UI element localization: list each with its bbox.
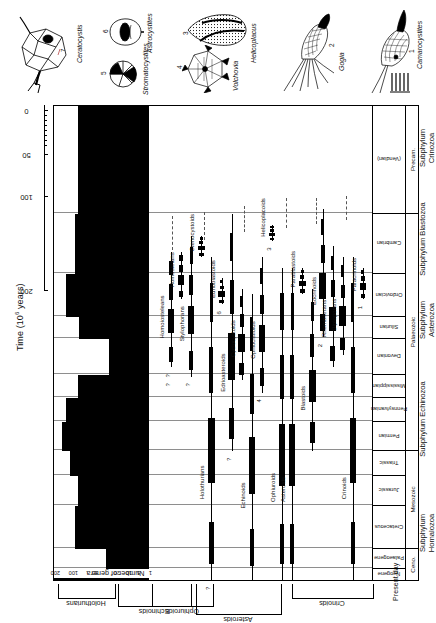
range-segment (361, 277, 365, 281)
period-cell: Permian (373, 421, 405, 450)
diversity-spike (121, 398, 149, 422)
range-segment (209, 347, 213, 392)
range-segment (341, 285, 345, 299)
genera-tick-label: 50 (92, 570, 98, 576)
class-bracket (152, 584, 214, 607)
phylogeny-connector (316, 198, 317, 224)
stromatocystites-illustration (106, 57, 140, 91)
range-bar-label: Edrioasteroids (220, 353, 226, 391)
diversity-spike (125, 451, 149, 476)
range-segment (301, 270, 304, 273)
subphylum-line1: Subphylum Echinozoa (419, 353, 428, 485)
range-segment (350, 418, 357, 483)
diversity-spike (130, 339, 149, 375)
subphylum-labels: SubphylumHomalozoaSubphylum EchinozoaSub… (419, 105, 433, 581)
range-annotation: ? (165, 383, 171, 386)
range-segment (238, 334, 245, 352)
range-segment (230, 280, 234, 313)
range-bar-label: Echinoids (240, 482, 246, 508)
helicoplacus-illustration (186, 7, 248, 53)
genera-tick-label: 5 (137, 570, 140, 576)
illustration-number-stromatocystites: 5 (100, 71, 107, 75)
time-tick (44, 290, 48, 291)
range-bar-label: Ophiocistioids (250, 321, 256, 358)
time-minor-tick (44, 135, 47, 136)
era-cell: Ceno. (405, 548, 418, 580)
range-segment (319, 273, 326, 299)
range-annotation: ? (185, 383, 191, 386)
time-minor-tick (44, 145, 47, 146)
time-tick-label: 200 (20, 287, 33, 296)
class-bracket-label: Holothurians (66, 600, 105, 607)
range-segment (310, 334, 314, 357)
range-bar-label: Stylophorans (179, 306, 185, 341)
range-bar-label: Paracrinoids (351, 258, 357, 291)
phylogeny-connector (172, 216, 173, 250)
subphylum-line1: Subphylum Blastozoa (419, 191, 428, 287)
era-label: Mesozoic (409, 486, 416, 512)
diversity-spike (118, 214, 149, 274)
illustration-name-helicoplacus: Helicoplacus (250, 23, 257, 63)
period-cell: Triassic (373, 450, 405, 475)
time-axis (44, 105, 45, 291)
range-segment (178, 275, 185, 285)
diversity-spike (137, 476, 149, 506)
period-label: Permian (379, 433, 400, 439)
range-segment (331, 256, 334, 271)
range-segment (219, 300, 224, 303)
range-segment (269, 233, 276, 236)
range-bar-label: Eocrinoids (311, 277, 317, 305)
period-label: Mississippian (372, 383, 405, 389)
range-segment (270, 238, 275, 240)
era-cell: Mesozoic (405, 450, 418, 548)
range-bar-label: Holothurians (199, 466, 205, 500)
range-bar-label: Homostelans (169, 252, 175, 287)
phylogeny-connector (346, 196, 347, 220)
period-label: Palaeogene (374, 556, 404, 562)
illustration-name-astrocystites: Astrocystites (146, 13, 153, 53)
genera-tick-label: 10 (126, 570, 132, 576)
period-label: Devonian (377, 354, 401, 360)
period-cell: Palaeogene (373, 548, 405, 568)
diversity-spike (118, 422, 149, 451)
subphylum-line2: Crinozoa (428, 105, 436, 191)
genera-tick-label: 100 (69, 570, 78, 576)
diversity-spike (118, 317, 149, 339)
range-bar-label: Blastoids (300, 386, 306, 410)
illustration-name-volchovia: Volchovia (232, 61, 239, 91)
range-segment (189, 275, 193, 295)
class-bracket (292, 584, 374, 599)
range-segment (289, 424, 296, 486)
time-tick-label: 50 (22, 151, 30, 160)
class-bracket-label: Crinoids (319, 600, 345, 607)
range-annotation: ? (226, 458, 232, 461)
range-segment (280, 293, 283, 330)
range-segment (240, 296, 243, 307)
period-label: Neogene (378, 572, 401, 578)
period-cell: Jurassic (373, 475, 405, 505)
range-segment (199, 242, 203, 245)
genera-tick-label: 1 (149, 570, 152, 576)
period-cell: Silurian (373, 316, 405, 338)
range-segment (270, 229, 274, 231)
phylogeny-connector (286, 198, 287, 228)
range-segment (198, 246, 205, 250)
subphylum-label: Subphylum Blastozoa (419, 191, 428, 287)
range-bar-label: Crinoids (341, 477, 347, 499)
class-bracket (58, 584, 116, 599)
range-segment (260, 268, 263, 284)
period-cell: Devonian (373, 338, 405, 374)
diversity-spike (125, 375, 149, 398)
range-segment (330, 346, 335, 362)
period-cell: Ordovician (373, 273, 405, 316)
period-cell: Neogene (373, 568, 405, 580)
period-label: Cambrian (377, 241, 401, 247)
range-segment (218, 291, 225, 296)
range-segment (220, 280, 223, 283)
range-segment (250, 374, 254, 414)
range-annotation: ? (165, 374, 171, 377)
range-segment (310, 422, 315, 443)
range-segment (188, 306, 195, 334)
